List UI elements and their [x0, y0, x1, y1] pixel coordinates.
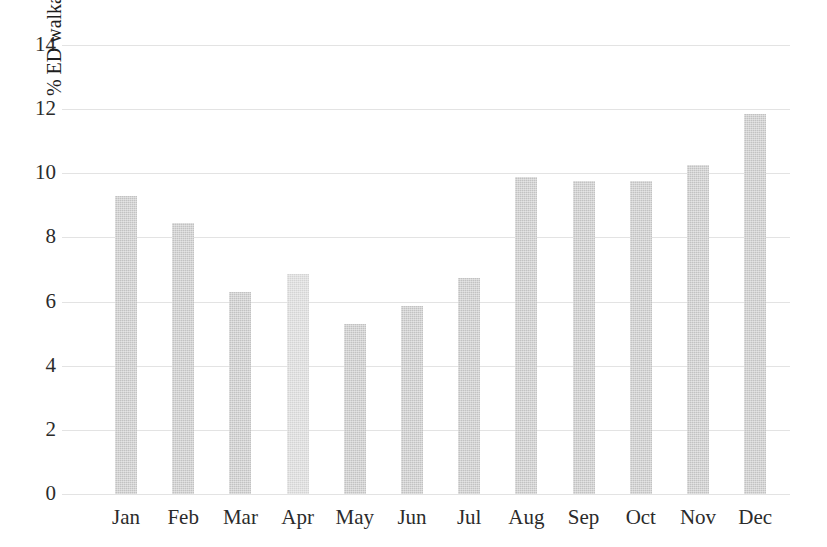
bar-sep[interactable] — [573, 181, 595, 494]
bar-may[interactable] — [344, 324, 366, 494]
bar-nov[interactable] — [687, 165, 709, 494]
bar-jan[interactable] — [115, 196, 137, 494]
bars-layer — [62, 40, 790, 494]
bar-mar[interactable] — [229, 292, 251, 494]
y-axis-tick-label: 0 — [14, 483, 56, 504]
gridline — [62, 494, 790, 495]
bar-jun[interactable] — [401, 306, 423, 494]
bar-jul[interactable] — [458, 278, 480, 494]
y-axis-title: % ED walkaways — [42, 0, 66, 175]
bar-dec[interactable] — [744, 114, 766, 494]
y-axis-title-container: % ED walkaways — [50, 175, 74, 475]
bar-chart-figure: 02468101214 % ED walkaways JanFebMarAprM… — [0, 0, 827, 547]
bar-aug[interactable] — [515, 177, 537, 495]
x-axis-tick-label-dec: Dec — [715, 504, 795, 530]
bar-feb[interactable] — [172, 223, 194, 494]
bar-apr[interactable] — [287, 274, 309, 494]
bar-oct[interactable] — [630, 181, 652, 494]
